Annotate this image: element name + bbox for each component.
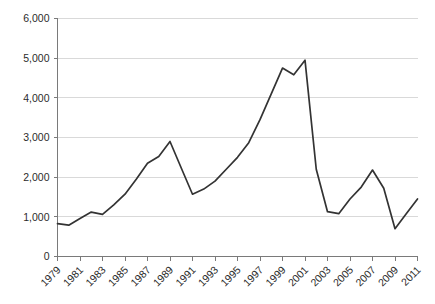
y-tick-label: 2,000 [23,171,49,183]
chart-plot-area: 01,0002,0003,0004,0005,0006,000 19791981… [0,0,435,304]
y-axis-tick-marks [54,19,58,257]
x-tick-label: 1983 [83,263,108,288]
y-axis-tick-labels: 01,0002,0003,0004,0005,0006,000 [23,12,49,262]
y-tick-label: 6,000 [23,12,49,24]
x-tick-label: 1989 [150,263,175,288]
x-tick-label: 1993 [195,263,220,288]
x-tick-label: 1981 [60,263,85,288]
x-tick-label: 2011 [398,263,423,288]
y-tick-label: 1,000 [23,211,49,223]
y-tick-label: 4,000 [23,92,49,104]
y-tick-label: 5,000 [23,52,49,64]
x-tick-label: 1979 [38,263,63,288]
x-tick-label: 1999 [263,263,288,288]
x-tick-label: 1997 [240,263,265,288]
x-axis-tick-labels: 1979198119831985198719891991199319951997… [38,263,423,288]
data-series-line [58,60,418,229]
x-tick-label: 2009 [375,263,400,288]
x-tick-label: 2001 [285,263,310,288]
x-tick-label: 2007 [353,263,378,288]
x-tick-label: 2003 [308,263,333,288]
gridlines [58,19,418,217]
x-tick-label: 2005 [330,263,355,288]
x-tick-label: 1987 [128,263,153,288]
line-chart: 01,0002,0003,0004,0005,0006,000 19791981… [0,0,435,304]
y-tick-label: 0 [44,250,50,262]
y-tick-label: 3,000 [23,131,49,143]
x-tick-label: 1991 [173,263,198,288]
x-axis-tick-marks [58,257,418,261]
x-tick-label: 1985 [105,263,130,288]
x-tick-label: 1995 [218,263,243,288]
